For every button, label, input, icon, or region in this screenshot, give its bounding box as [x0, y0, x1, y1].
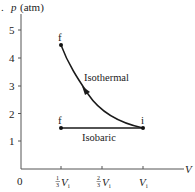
pv-diagram: 1 2 3 4 5 p (atm) . 0 V 1 3 V i 2 3 V i … — [0, 0, 195, 192]
axis-dot: . — [1, 1, 4, 13]
svg-text:i: i — [68, 183, 70, 189]
isothermal-arrow-icon — [82, 86, 90, 95]
y-tick-label-4: 4 — [9, 52, 15, 64]
svg-text:3: 3 — [56, 182, 59, 188]
y-tick-label-2: 2 — [9, 108, 15, 120]
point-f-bottom-label: f — [58, 114, 62, 126]
point-f-top-marker — [59, 43, 63, 47]
isobaric-label: Isobaric — [82, 132, 116, 143]
y-axis-title-symbol: p — [10, 1, 17, 13]
x-tick-label-vi: V i — [139, 176, 148, 189]
y-axis-title-unit: (atm) — [20, 1, 44, 14]
isothermal-label: Isothermal — [84, 72, 129, 83]
y-tick-label-3: 3 — [9, 80, 15, 92]
svg-text:i: i — [109, 183, 111, 189]
svg-text:3: 3 — [97, 182, 100, 188]
point-f-top-label: f — [58, 31, 62, 43]
x-tick-label-two-thirds: 2 3 V i — [97, 175, 112, 189]
svg-text:i: i — [146, 183, 148, 189]
point-i-marker — [141, 126, 145, 130]
svg-text:1: 1 — [56, 175, 59, 181]
x-axis-title: V — [185, 163, 193, 175]
point-f-bottom-marker — [59, 126, 63, 130]
y-tick-label-1: 1 — [9, 135, 15, 147]
point-i-label: i — [141, 114, 144, 126]
y-tick-label-5: 5 — [9, 24, 15, 36]
origin-label: 0 — [17, 175, 23, 187]
x-tick-label-one-third: 1 3 V i — [56, 175, 71, 189]
svg-text:2: 2 — [97, 175, 100, 181]
isothermal-curve — [61, 45, 143, 128]
